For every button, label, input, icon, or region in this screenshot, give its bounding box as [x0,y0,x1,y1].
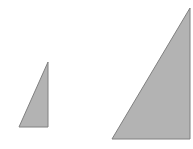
similar-triangles-diagram [0,0,193,149]
figure-canvas [0,0,193,149]
